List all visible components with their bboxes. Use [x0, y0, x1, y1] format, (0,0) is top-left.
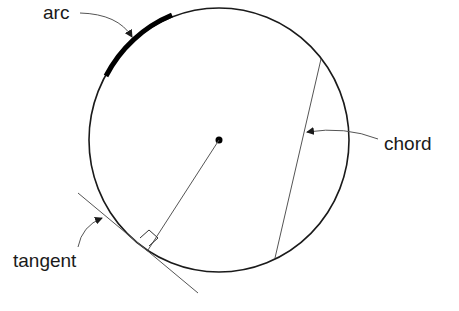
tangent-line: [78, 193, 198, 293]
arc-leader-arrow: [80, 13, 132, 37]
chord: [275, 59, 321, 258]
circle-diagram: arc chord tangent: [0, 0, 459, 311]
chord-label: chord: [384, 133, 432, 154]
tangent-leader-arrow: [78, 218, 102, 247]
tangent-label: tangent: [13, 250, 77, 271]
radius: [148, 140, 219, 250]
chord-leader-arrow: [307, 130, 378, 139]
arc: [106, 15, 172, 76]
arc-label: arc: [43, 2, 69, 23]
